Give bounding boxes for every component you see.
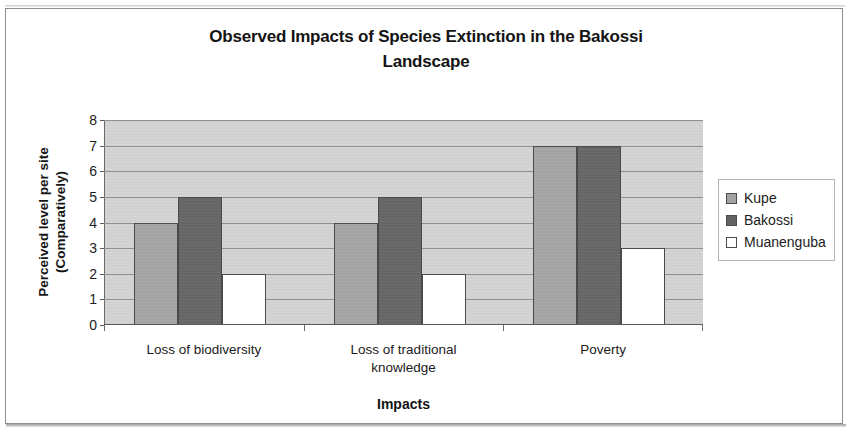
- bar-texture: [578, 147, 620, 324]
- y-axis-tick-mark: [100, 248, 104, 249]
- bar-bakossi-1: [178, 197, 222, 325]
- legend-item-muanenguba[interactable]: Muanenguba: [726, 231, 826, 253]
- chart-page: Observed Impacts of Species Extinction i…: [0, 0, 851, 442]
- legend-item-label: Muanenguba: [744, 234, 826, 250]
- legend-item-bakossi[interactable]: Bakossi: [726, 209, 826, 231]
- y-axis-tick-label: 0: [89, 317, 97, 333]
- bar-bakossi-2: [378, 197, 422, 325]
- x-axis-tick-mark: [104, 325, 105, 331]
- x-axis-line: [104, 324, 703, 325]
- y-axis-tick-mark: [100, 223, 104, 224]
- y-axis-title: Perceived level per site (Comparatively): [35, 107, 69, 337]
- y-axis-tick-mark: [100, 171, 104, 172]
- legend-item-kupe[interactable]: Kupe: [726, 187, 826, 209]
- bar-bakossi-3: [577, 146, 621, 325]
- y-axis-title-line-2: (Comparatively): [53, 171, 68, 273]
- chart-title-line-1: Observed Impacts of Species Extinction i…: [209, 27, 642, 46]
- y-axis-tick-mark: [100, 120, 104, 121]
- bar-kupe-1: [134, 223, 178, 326]
- x-axis-category-label-line: knowledge: [371, 360, 436, 375]
- bar-muanenguba-3: [621, 248, 665, 325]
- y-axis-tick-label: 8: [89, 112, 97, 128]
- bar-kupe-2: [334, 223, 378, 326]
- bar-kupe-3: [533, 146, 577, 325]
- x-axis-tick-mark: [304, 325, 305, 331]
- y-axis-tick-mark: [100, 146, 104, 147]
- x-axis-category-label-line: Loss of biodiversity: [146, 342, 261, 357]
- bar-muanenguba-1: [222, 274, 266, 325]
- y-axis-title-line-1: Perceived level per site: [36, 147, 51, 296]
- chart-title: Observed Impacts of Species Extinction i…: [96, 24, 756, 74]
- legend-swatch-icon: [726, 193, 737, 204]
- chart-legend: KupeBakossiMuanenguba: [718, 179, 835, 261]
- y-axis-tick-label: 6: [89, 163, 97, 179]
- y-axis-tick-label: 3: [89, 240, 97, 256]
- y-axis-tick-mark: [100, 274, 104, 275]
- y-axis-tick-mark: [100, 197, 104, 198]
- x-axis-category-label: Loss of biodiversity: [146, 341, 261, 359]
- x-axis-title: Impacts: [104, 396, 703, 412]
- page-frame-top-edge: [5, 5, 845, 7]
- legend-swatch-icon: [726, 237, 737, 248]
- x-axis-tick-mark: [503, 325, 504, 331]
- plot-area: 012345678 Loss of biodiversityLoss of tr…: [104, 120, 703, 325]
- bar-muanenguba-2: [422, 274, 466, 325]
- x-axis-tick-mark: [702, 325, 703, 331]
- legend-item-label: Bakossi: [744, 212, 793, 228]
- y-axis-tick-label: 4: [89, 215, 97, 231]
- y-axis-tick-label: 7: [89, 138, 97, 154]
- y-axis-tick-label: 1: [89, 291, 97, 307]
- gridline: [104, 120, 703, 121]
- y-axis-tick-mark: [100, 299, 104, 300]
- x-axis-category-label: Poverty: [580, 341, 626, 359]
- chart-title-line-2: Landscape: [382, 52, 469, 71]
- x-axis-category-label-line: Loss of traditional: [351, 342, 457, 357]
- page-frame-bottom-edge: [6, 424, 846, 427]
- y-axis-tick-label: 5: [89, 189, 97, 205]
- y-axis-tick-label: 2: [89, 266, 97, 282]
- bar-texture: [534, 147, 576, 324]
- bar-texture: [335, 224, 377, 325]
- bar-texture: [379, 198, 421, 324]
- x-axis-category-label-line: Poverty: [580, 342, 626, 357]
- legend-swatch-icon: [726, 215, 737, 226]
- x-axis-category-label: Loss of traditionalknowledge: [351, 341, 457, 377]
- bar-texture: [135, 224, 177, 325]
- bar-texture: [179, 198, 221, 324]
- legend-item-label: Kupe: [744, 190, 777, 206]
